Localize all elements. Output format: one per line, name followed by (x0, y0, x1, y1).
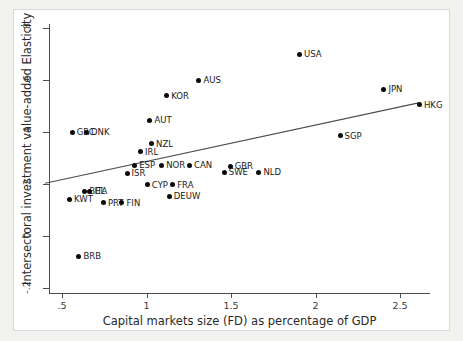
data-point-label: DEUW (174, 192, 201, 201)
data-point-label: USA (304, 50, 322, 59)
data-point-label: IRL (145, 148, 158, 157)
x-axis-line (49, 293, 430, 294)
data-point (147, 118, 152, 123)
data-point-label: SGP (345, 132, 362, 141)
figure-background: -.20.2.4.6.8 .511.522.5 GRCDNKAUSKORAUTN… (0, 0, 463, 341)
y-tick-mark (43, 236, 49, 237)
data-point-label: NLD (263, 168, 281, 177)
data-point (170, 182, 175, 187)
x-tick-mark (316, 293, 317, 298)
x-axis-label: Capital markets size (FD) as percentage … (49, 314, 430, 328)
y-tick-mark (43, 132, 49, 133)
data-point (67, 197, 72, 202)
data-point-label: CYP (152, 181, 168, 190)
data-point-label: NZL (156, 140, 173, 149)
data-point-label: FIN (126, 199, 140, 208)
data-point-label: KOR (171, 92, 189, 101)
x-tick-label: 1 (127, 300, 167, 311)
data-point-label: AUS (203, 76, 220, 85)
y-tick-mark (43, 28, 49, 29)
data-point (256, 170, 261, 175)
data-point-label: CAN (194, 161, 212, 170)
data-point (84, 130, 89, 135)
data-point (417, 102, 422, 107)
data-point (125, 171, 130, 176)
data-point-label: SWE (229, 168, 248, 177)
data-point (101, 200, 106, 205)
data-point-label: ISR (132, 169, 146, 178)
data-point (145, 182, 150, 187)
data-point (70, 130, 75, 135)
data-point (138, 149, 143, 154)
data-point (297, 52, 302, 57)
data-point-label: KWT (74, 195, 93, 204)
data-point-label: HKG (424, 101, 443, 110)
data-point (187, 163, 192, 168)
x-tick-label: .5 (42, 300, 82, 311)
x-tick-label: 2 (296, 300, 336, 311)
x-tick-mark (400, 293, 401, 298)
data-point-label: FRA (177, 181, 193, 190)
data-point (381, 87, 386, 92)
data-point (132, 163, 137, 168)
y-tick-mark (43, 80, 49, 81)
scatter-plot: -.20.2.4.6.8 .511.522.5 GRCDNKAUSKORAUTN… (0, 0, 463, 341)
data-point (167, 194, 172, 199)
data-point-label: AUT (154, 116, 171, 125)
data-point (159, 163, 164, 168)
data-point-label: NOR (166, 161, 185, 170)
data-point (149, 141, 154, 146)
x-tick-label: 1.5 (211, 300, 251, 311)
y-tick-mark (43, 184, 49, 185)
data-point-label: JPN (388, 85, 402, 94)
y-axis-label: Intersectoral investment value-added Ela… (20, 13, 34, 285)
data-point (222, 170, 227, 175)
x-tick-mark (62, 293, 63, 298)
data-point-label: ITA (94, 187, 107, 196)
x-tick-mark (231, 293, 232, 298)
data-point (164, 93, 169, 98)
y-axis-line (49, 24, 50, 294)
data-point-label: BRB (83, 252, 101, 261)
x-tick-mark (147, 293, 148, 298)
data-point (196, 78, 201, 83)
data-point (338, 133, 343, 138)
data-point-label: DNK (91, 128, 109, 137)
data-point (76, 254, 81, 259)
x-tick-label: 2.5 (380, 300, 420, 311)
y-tick-mark (43, 288, 49, 289)
